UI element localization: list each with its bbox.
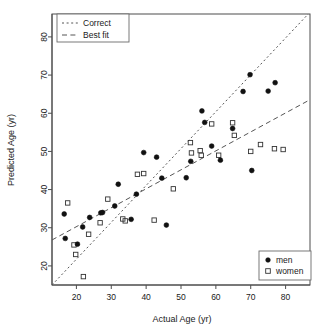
- legend-women-label: women: [275, 266, 304, 276]
- data-point-men: [112, 204, 117, 209]
- data-point-men: [87, 215, 92, 220]
- legend-correct-label: Correct: [83, 18, 112, 28]
- data-point-men: [100, 210, 105, 215]
- data-point-men: [184, 175, 189, 180]
- y-axis-title: Predicted Age (yr): [6, 114, 16, 186]
- x-tick-label: 70: [246, 292, 256, 302]
- legend-groups[interactable]: men women: [259, 251, 311, 280]
- y-tick-label: 40: [39, 185, 49, 195]
- data-point-men: [141, 150, 146, 155]
- x-tick-label: 60: [211, 292, 221, 302]
- data-point-men: [273, 80, 278, 85]
- data-point-men: [63, 236, 68, 241]
- plot-canvas: 20304050607080 20304050607080 Actual Age…: [0, 0, 334, 333]
- data-point-men: [200, 109, 205, 114]
- scatter-plot-figure: 20304050607080 20304050607080 Actual Age…: [0, 0, 334, 333]
- data-point-men: [209, 144, 214, 149]
- data-point-men: [249, 168, 254, 173]
- legend-men-marker: [266, 258, 271, 263]
- data-point-men: [75, 242, 80, 247]
- y-tick-label: 30: [39, 223, 49, 233]
- x-axis-title: Actual Age (yr): [152, 314, 211, 324]
- data-point-men: [159, 176, 164, 181]
- data-point-men: [129, 217, 134, 222]
- data-point-men: [188, 159, 193, 164]
- figure-background: [0, 0, 334, 333]
- y-tick-label: 70: [39, 70, 49, 80]
- data-point-men: [202, 120, 207, 125]
- data-point-men: [218, 158, 223, 163]
- legend-reference-lines[interactable]: Correct Best fit: [57, 14, 129, 42]
- data-point-men: [80, 225, 85, 230]
- data-point-men: [248, 72, 253, 77]
- x-tick-label: 40: [141, 292, 151, 302]
- data-point-men: [62, 212, 67, 217]
- data-point-men: [116, 182, 121, 187]
- data-point-men: [164, 223, 169, 228]
- data-point-men: [230, 126, 235, 131]
- legend-bestfit-label: Best fit: [83, 30, 110, 40]
- y-tick-label: 60: [39, 108, 49, 118]
- data-point-men: [266, 89, 271, 94]
- y-tick-label: 80: [39, 32, 49, 42]
- data-point-men: [154, 155, 159, 160]
- x-tick-label: 80: [281, 292, 291, 302]
- data-point-men: [134, 192, 139, 197]
- x-tick-label: 50: [176, 292, 186, 302]
- legend-men-label: men: [276, 255, 293, 265]
- y-tick-label: 20: [39, 261, 49, 271]
- x-tick-label: 30: [107, 292, 117, 302]
- x-tick-label: 20: [72, 292, 82, 302]
- data-point-men: [241, 89, 246, 94]
- y-tick-label: 50: [39, 146, 49, 156]
